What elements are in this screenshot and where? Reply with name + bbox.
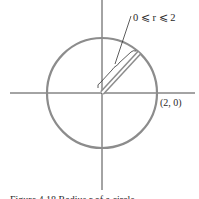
figure-caption: Figure 4.18 Radius r of a circle [10, 194, 135, 199]
range-label: 0 ⩽ r ⩽ 2 [133, 12, 176, 23]
point-label: (2, 0) [160, 97, 182, 109]
radius-segment [102, 53, 139, 93]
brace [98, 51, 136, 88]
polar-diagram: 0 ⩽ r ⩽ 2 (2, 0) Figure 4.18 Radius r of… [0, 0, 199, 199]
